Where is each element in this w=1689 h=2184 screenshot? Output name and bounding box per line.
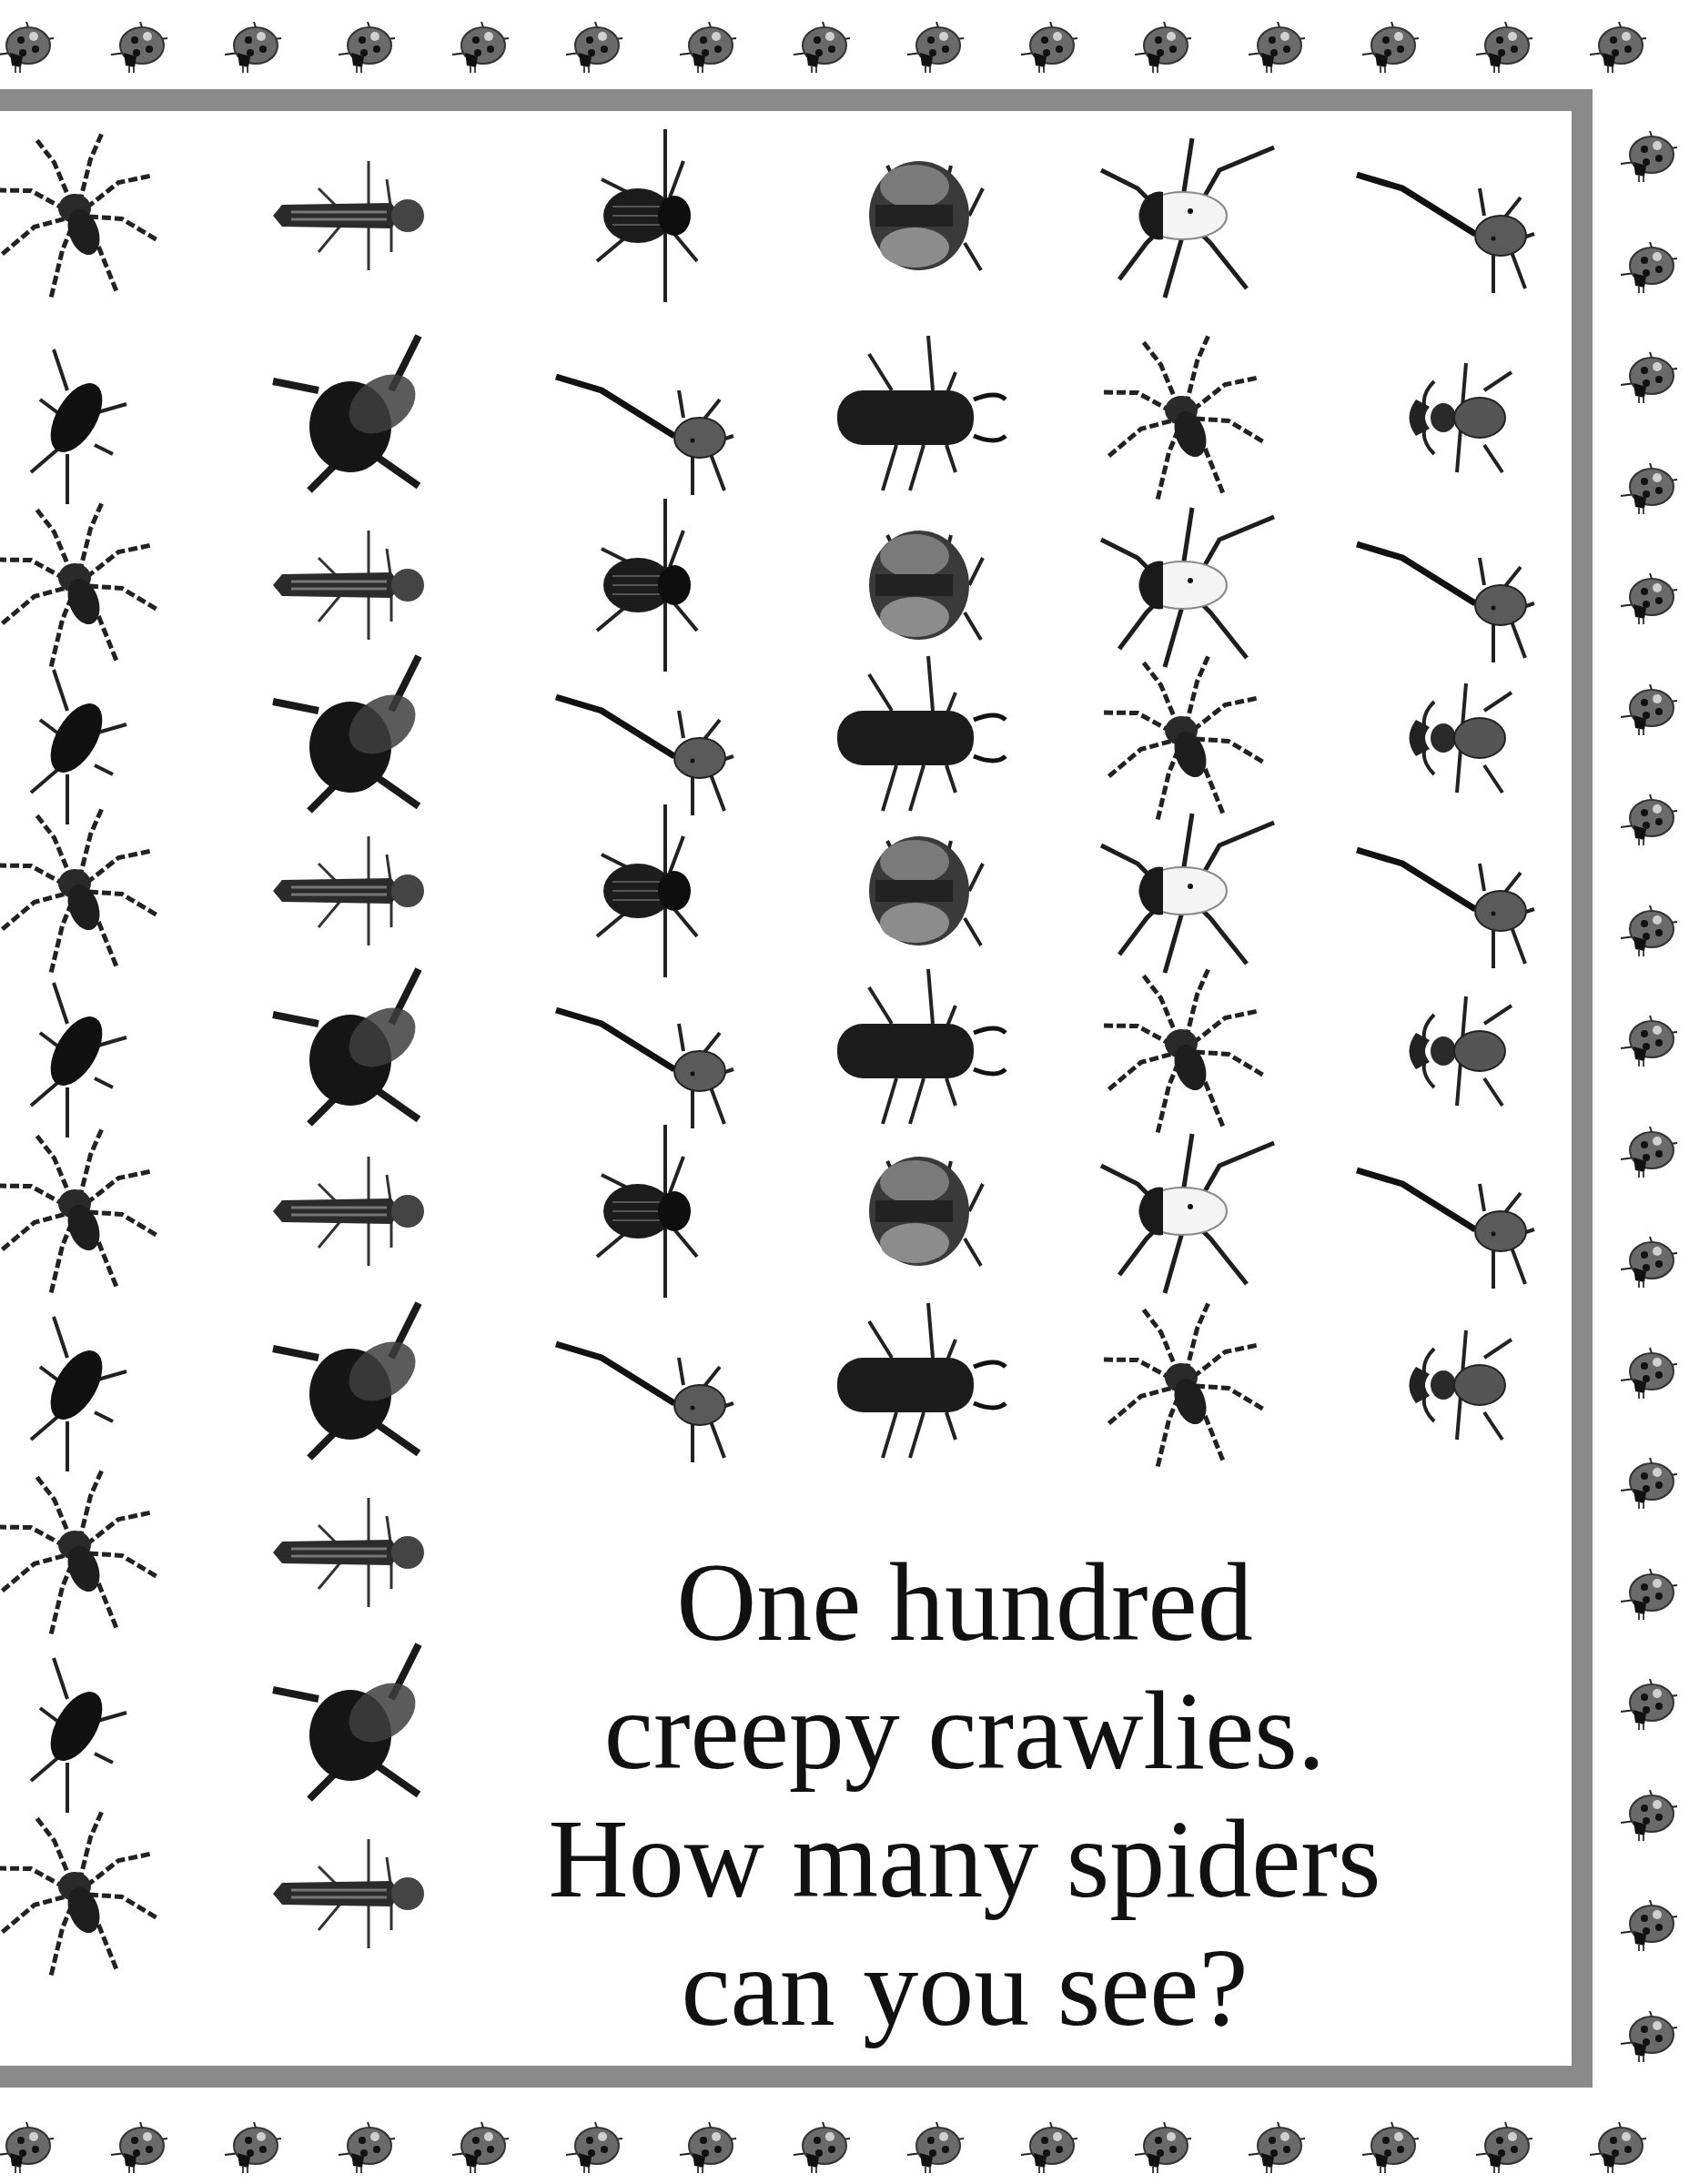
caption-line: How many spiders xyxy=(510,1795,1420,1923)
ladybug-icon xyxy=(1131,2120,1195,2175)
giraffe-weevil-icon xyxy=(1348,125,1548,307)
dragonfly-larva-icon xyxy=(255,1120,455,1302)
ladybug-icon xyxy=(1472,20,1536,75)
ladybug-icon xyxy=(1617,1346,1681,1400)
ladybug-icon xyxy=(790,20,854,75)
ladybug-icon xyxy=(1586,20,1650,75)
caption: One hundred creepy crawlies. How many sp… xyxy=(510,1538,1420,2051)
dragonfly-larva-icon xyxy=(255,1461,455,1643)
dragonfly-larva-icon xyxy=(255,800,455,982)
ladybug-icon xyxy=(562,2120,626,2175)
ladybug-icon xyxy=(1617,461,1681,516)
ladybug-icon xyxy=(1617,2009,1681,2064)
frame-bottom-border xyxy=(0,2066,1593,2088)
ladybug-icon xyxy=(107,20,171,75)
ladybug-icon xyxy=(0,20,57,75)
spider-icon xyxy=(0,125,177,307)
ladybug-icon xyxy=(1017,20,1081,75)
ladybug-icon xyxy=(1617,240,1681,295)
ladybug-icon xyxy=(221,2120,285,2175)
ladybug-icon xyxy=(1617,571,1681,626)
ladybug-icon xyxy=(335,2120,399,2175)
ladybug-icon xyxy=(904,2120,967,2175)
ladybug-icon xyxy=(1617,1677,1681,1732)
tortoise-beetle-icon xyxy=(819,800,1019,982)
weevil-icon xyxy=(547,1120,747,1302)
ladybug-icon xyxy=(0,2120,57,2175)
tortoise-beetle-icon xyxy=(819,1120,1019,1302)
frame-right-border xyxy=(1572,89,1593,2088)
ladybug-icon xyxy=(1617,1567,1681,1622)
ladybug-icon xyxy=(1586,2120,1650,2175)
dragonfly-larva-icon xyxy=(255,125,455,307)
hairy-larva-icon xyxy=(819,960,1019,1142)
giraffe-weevil-icon xyxy=(1348,800,1548,982)
stag-beetle-icon xyxy=(1348,327,1548,509)
ladybug-icon xyxy=(1617,793,1681,847)
ladybug-icon xyxy=(107,2120,171,2175)
weevil-icon xyxy=(547,125,747,307)
shield-bug-icon xyxy=(0,327,177,509)
ladybug-icon xyxy=(1245,20,1309,75)
ladybug-icon xyxy=(449,2120,512,2175)
ladybug-icon xyxy=(676,2120,740,2175)
ladybug-icon xyxy=(1617,350,1681,405)
stag-beetle-icon xyxy=(1348,1294,1548,1476)
ladybug-icon xyxy=(676,20,740,75)
frame-top-border xyxy=(0,89,1593,111)
spider-icon xyxy=(1083,327,1283,509)
ladybug-icon xyxy=(1617,1898,1681,1953)
ladybug-icon xyxy=(562,20,626,75)
spider-icon xyxy=(1083,960,1283,1142)
ladybug-icon xyxy=(1359,2120,1422,2175)
ladybug-icon xyxy=(790,2120,854,2175)
ladybug-icon xyxy=(335,20,399,75)
ladybug-icon xyxy=(1472,2120,1536,2175)
bumblebee-icon xyxy=(255,1294,455,1476)
ladybug-icon xyxy=(1017,2120,1081,2175)
hairy-larva-icon xyxy=(819,1294,1019,1476)
giraffe-weevil-icon xyxy=(1348,1120,1548,1302)
ladybug-icon xyxy=(1617,1456,1681,1511)
ladybug-icon xyxy=(1617,904,1681,958)
giraffe-weevil-icon xyxy=(547,1294,747,1476)
shield-bug-icon xyxy=(0,960,177,1142)
white-beetle-icon xyxy=(1083,800,1283,982)
spider-icon xyxy=(0,800,177,982)
spider-icon xyxy=(0,1803,177,1985)
ladybug-icon xyxy=(221,20,285,75)
white-beetle-icon xyxy=(1083,1120,1283,1302)
caption-line: One hundred xyxy=(510,1538,1420,1666)
caption-line: can you see? xyxy=(510,1923,1420,2051)
stag-beetle-icon xyxy=(1348,960,1548,1142)
ladybug-icon xyxy=(1359,20,1422,75)
caption-line: creepy crawlies. xyxy=(510,1666,1420,1795)
bumblebee-icon xyxy=(255,960,455,1142)
ladybug-icon xyxy=(1617,1125,1681,1179)
ladybug-icon xyxy=(449,20,512,75)
ladybug-icon xyxy=(1617,1235,1681,1289)
giraffe-weevil-icon xyxy=(547,960,747,1142)
ladybug-icon xyxy=(1617,129,1681,184)
ladybug-icon xyxy=(1617,1014,1681,1068)
shield-bug-icon xyxy=(0,1294,177,1476)
weevil-icon xyxy=(547,800,747,982)
spider-icon xyxy=(1083,1294,1283,1476)
tortoise-beetle-icon xyxy=(819,125,1019,307)
ladybug-icon xyxy=(904,20,967,75)
ladybug-icon xyxy=(1617,1788,1681,1843)
giraffe-weevil-icon xyxy=(547,327,747,509)
spider-icon xyxy=(0,1461,177,1643)
shield-bug-icon xyxy=(0,1635,177,1817)
hairy-larva-icon xyxy=(819,327,1019,509)
spider-icon xyxy=(0,1120,177,1302)
bumblebee-icon xyxy=(255,327,455,509)
ladybug-icon xyxy=(1131,20,1195,75)
dragonfly-larva-icon xyxy=(255,1803,455,1985)
bumblebee-icon xyxy=(255,1635,455,1817)
ladybug-icon xyxy=(1617,682,1681,737)
ladybug-icon xyxy=(1245,2120,1309,2175)
white-beetle-icon xyxy=(1083,125,1283,307)
